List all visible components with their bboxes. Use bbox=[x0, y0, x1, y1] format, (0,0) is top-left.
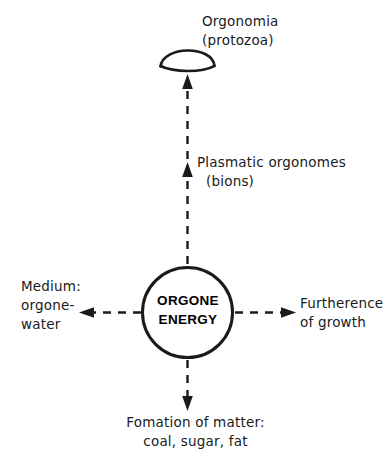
node-label-orgonomia: Orgonomia(protozoa) bbox=[202, 12, 279, 50]
orgonomia-line1: Orgonomia bbox=[202, 13, 279, 29]
medium-line1: Medium: bbox=[21, 278, 81, 294]
node-label-formation-of-matter: Fomation of matter:coal, sugar, fat bbox=[0, 413, 391, 451]
core-label-line1: ORGONE bbox=[157, 293, 219, 308]
node-label-furtherence: Furtherenceof growth bbox=[300, 294, 383, 332]
arrow-right-to-furtherence bbox=[235, 307, 296, 318]
medium-line3: water bbox=[21, 316, 60, 332]
protozoa-crescent-icon bbox=[161, 50, 215, 70]
orgone-energy-diagram: ORGONEENERGY Orgonomia(protozoa) Plasmat… bbox=[0, 0, 391, 453]
core-label-line2: ENERGY bbox=[159, 312, 218, 327]
orgone-energy-core-label: ORGONEENERGY bbox=[143, 291, 233, 329]
arrow-up-to-plasmatic-orgonomes bbox=[182, 162, 193, 177]
node-label-plasmatic-orgonomes: Plasmatic orgonomes (bions) bbox=[197, 153, 346, 191]
arrow-left-to-medium bbox=[79, 307, 141, 318]
plasmatic-line1: Plasmatic orgonomes bbox=[197, 154, 346, 170]
arrow-down-to-formation bbox=[182, 360, 193, 411]
diagram-canvas bbox=[0, 0, 391, 453]
furtherence-line2: of growth bbox=[300, 314, 366, 330]
plasmatic-line2: (bions) bbox=[206, 173, 254, 189]
node-label-medium: Medium:orgone-water bbox=[21, 277, 81, 334]
formation-line2: coal, sugar, fat bbox=[143, 433, 247, 449]
furtherence-line1: Furtherence bbox=[300, 295, 383, 311]
formation-line1: Fomation of matter: bbox=[126, 414, 264, 430]
medium-line2: orgone- bbox=[21, 297, 75, 313]
orgonomia-line2: (protozoa) bbox=[202, 32, 274, 48]
